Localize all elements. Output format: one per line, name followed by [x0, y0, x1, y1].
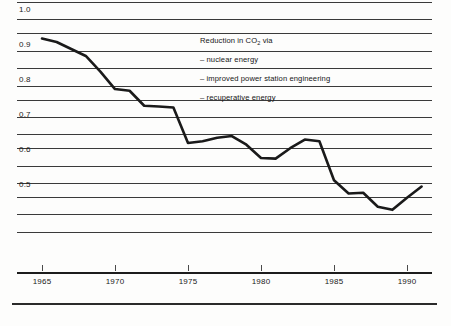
x-axis-tick-1980: [261, 265, 262, 271]
legend-item-nuclear-energy: – nuclear energy: [200, 55, 258, 64]
y-axis-tick-label-0-5: 0.5: [19, 180, 31, 189]
x-axis-tick-1965: [42, 265, 43, 271]
x-axis-line: [17, 272, 432, 274]
y-axis-tick-label-1-0: 1.0: [19, 5, 31, 14]
y-axis-tick-label-0-9: 0.9: [19, 40, 31, 49]
x-axis-tick-label-1970: 1970: [106, 277, 125, 286]
x-axis-tick-1975: [188, 265, 189, 271]
x-axis-tick-label-1980: 1980: [252, 277, 271, 286]
x-axis-tick-1990: [407, 265, 408, 271]
co2-reduction-line-chart: 1.00.90.80.70.60.5 Reduction in CO2 via …: [0, 0, 451, 326]
x-axis-tick-1970: [115, 265, 116, 271]
y-axis-tick-label-0-6: 0.6: [19, 145, 31, 154]
x-axis-tick-label-1985: 1985: [325, 277, 344, 286]
legend-heading: Reduction in CO2 via: [200, 36, 273, 46]
legend-heading-subscript: 2: [257, 40, 260, 46]
bottom-rule: [12, 303, 437, 305]
x-axis-tick-label-1990: 1990: [398, 277, 417, 286]
legend-item-improved-power-station-engineering: – improved power station engineering: [200, 74, 330, 83]
y-axis-tick-label-0-8: 0.8: [19, 75, 31, 84]
x-axis-tick-1985: [334, 265, 335, 271]
legend-heading-suffix: via: [260, 36, 272, 45]
y-axis-tick-label-0-7: 0.7: [19, 110, 31, 119]
legend-heading-prefix: Reduction in CO: [200, 36, 257, 45]
x-axis-tick-label-1965: 1965: [33, 277, 52, 286]
legend-item-recuperative-energy: – recuperative energy: [200, 93, 276, 102]
series-polyline: [42, 39, 422, 210]
x-axis-tick-label-1975: 1975: [179, 277, 198, 286]
